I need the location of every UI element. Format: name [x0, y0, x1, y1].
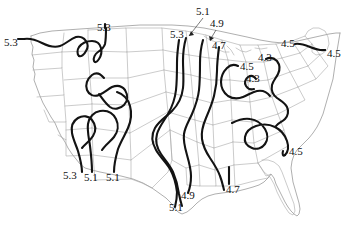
contour-label-53-upmidwest: 5.3: [170, 29, 184, 40]
contour-label-45-maine: 4.5: [281, 38, 295, 49]
contour-label-51-upmidwest: 5.1: [196, 6, 210, 17]
contour-label-51-gulf: 5.1: [169, 202, 183, 213]
contour-label-45-atlantic: 4.5: [327, 48, 341, 59]
contour-51-greatbasin-upper: [86, 73, 127, 108]
contour-49-mississippi: [184, 40, 203, 193]
contour-label-47-greatlakes: 4.7: [212, 40, 226, 51]
state-boundaries: [32, 28, 329, 215]
contour-label-49-gulf: 4.9: [181, 190, 195, 201]
contour-map-figure: 5.3 5.3 5.3 5.1 4.9 4.7 4.5 4.3 4.3 4.5 …: [0, 0, 351, 229]
contour-label-51-southwest: 5.1: [84, 172, 98, 183]
contour-label-45-ohio: 4.5: [240, 61, 254, 72]
contour-label-53-southwest: 5.3: [63, 170, 77, 181]
contour-label-45-carolina: 4.5: [289, 146, 303, 157]
contour-label-49-upmidwest: 4.9: [210, 18, 224, 29]
contour-label-53-west: 5.3: [4, 37, 18, 48]
contour-label-43-northeast: 4.3: [258, 52, 272, 63]
contour-45-southeast-tail: [283, 151, 285, 156]
contour-label-43-appalachia: 4.3: [246, 73, 260, 84]
contour-label-51-southplains: 5.1: [106, 172, 120, 183]
contour-label-53-northplains: 5.3: [97, 22, 111, 33]
contour-label-47-gulf: 4.7: [226, 184, 240, 195]
contour-45-southeast: [232, 119, 288, 155]
